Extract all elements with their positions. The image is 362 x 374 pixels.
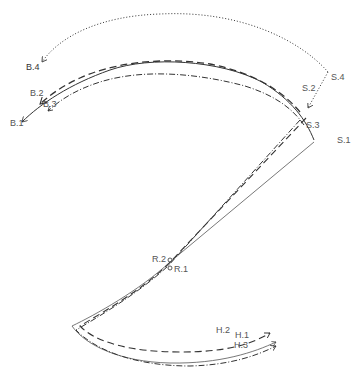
r2-marker [168, 258, 172, 262]
trajectory-diagram: B.4 B.2 B.3 B.1 S.4 S.2 S.3 S.1 R.2 R.1 … [0, 0, 362, 374]
label-b1: B.1 [10, 118, 24, 128]
path-2-dashed-lower [80, 118, 306, 352]
label-s1: S.1 [337, 135, 351, 145]
label-h1: H.1 [235, 330, 249, 340]
label-s3: S.3 [306, 120, 320, 130]
label-r1: R.1 [174, 264, 188, 274]
path-3-dashdot [48, 74, 304, 125]
path-1-solid [22, 62, 314, 140]
path-1-solid-lower [72, 142, 314, 363]
label-h3: H.3 [234, 340, 248, 350]
label-r2: R.2 [152, 254, 166, 264]
label-b2: B.2 [30, 88, 44, 98]
r1-marker [168, 266, 172, 270]
label-s4: S.4 [331, 72, 345, 82]
path-2-dashed [40, 61, 300, 112]
label-h2: H.2 [216, 325, 230, 335]
label-b4: B.4 [26, 62, 40, 72]
label-s2: S.2 [302, 83, 316, 93]
path-4-dotted [42, 14, 328, 72]
label-b3: B.3 [43, 99, 57, 109]
